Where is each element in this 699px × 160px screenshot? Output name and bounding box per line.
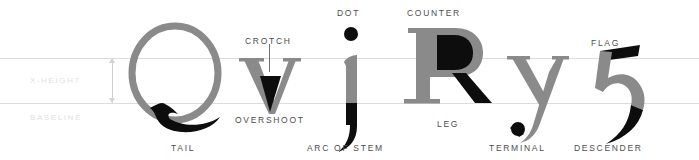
baseline-label: BASELINE <box>30 113 82 122</box>
callout-arc-of-stem: ARC OF STEM <box>307 143 384 153</box>
glyph-r <box>0 0 699 160</box>
glyph-five <box>0 0 699 160</box>
callout-terminal: TERMINAL <box>489 143 546 153</box>
callout-leg: LEG <box>437 119 459 129</box>
glyph-j <box>0 0 699 160</box>
callout-overshoot: OVERSHOOT <box>235 115 305 125</box>
x-height-guide-line <box>0 58 699 59</box>
callout-descender: DESCENDER <box>574 143 643 153</box>
typography-anatomy-diagram: X-HEIGHT BASELINE <box>0 0 699 160</box>
callout-counter: COUNTER <box>407 8 461 18</box>
glyph-y <box>0 0 699 160</box>
baseline-guide-line <box>0 103 699 104</box>
x-height-measure-arrow <box>112 58 113 103</box>
callout-crotch: CROTCH <box>245 36 292 46</box>
glyph-v <box>0 0 699 160</box>
callout-flag: FLAG <box>591 38 620 48</box>
glyph-q <box>0 0 699 160</box>
callout-tail: TAIL <box>171 143 195 153</box>
x-height-label: X-HEIGHT <box>30 76 81 85</box>
crotch-pointer-line <box>269 44 270 72</box>
callout-dot: DOT <box>337 8 360 18</box>
